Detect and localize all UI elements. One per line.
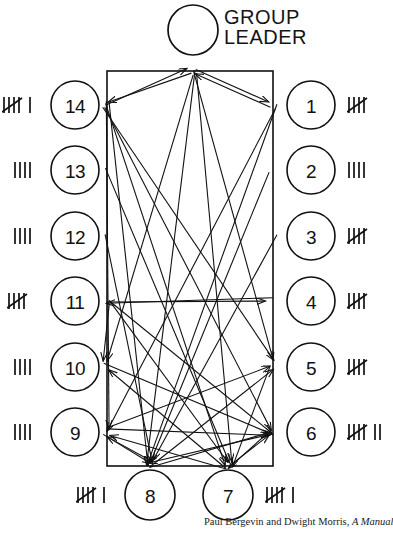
group-leader-node[interactable] xyxy=(168,5,218,55)
interaction-arrow xyxy=(107,75,193,361)
interaction-arrow xyxy=(110,435,227,468)
tally-marks-12 xyxy=(13,225,39,247)
tally-marks-9 xyxy=(13,421,39,443)
member-number: 5 xyxy=(306,358,316,379)
member-node-3[interactable]: 3 xyxy=(287,212,335,260)
member-number: 2 xyxy=(306,161,316,182)
member-number: 4 xyxy=(306,292,317,313)
member-node-2[interactable]: 2 xyxy=(287,146,335,194)
tally-marks-5 xyxy=(347,356,379,378)
interaction-arrow xyxy=(153,235,277,460)
member-node-6[interactable]: 6 xyxy=(287,408,335,456)
figure-caption: Paul Bergevin and Dwight Morris, A Manua… xyxy=(204,516,393,527)
tally-marks-10 xyxy=(13,356,39,378)
member-node-13[interactable]: 13 xyxy=(51,146,99,194)
interaction-arrow xyxy=(109,300,228,462)
member-node-8[interactable]: 8 xyxy=(125,470,175,520)
member-number: 12 xyxy=(65,227,85,248)
member-number: 14 xyxy=(65,96,86,117)
interaction-arrow xyxy=(106,68,187,105)
group-leader-label: GROUP LEADER xyxy=(224,7,307,47)
member-node-14[interactable]: 14 xyxy=(51,81,99,129)
group-leader-circle[interactable] xyxy=(168,5,218,55)
interaction-arrow xyxy=(105,107,272,430)
interaction-arrow xyxy=(103,107,274,360)
tally-marks-6 xyxy=(347,421,389,443)
member-node-11[interactable]: 11 xyxy=(51,277,99,325)
member-number: 1 xyxy=(306,96,316,117)
interaction-arrow xyxy=(195,74,270,107)
member-node-1[interactable]: 1 xyxy=(287,81,335,129)
member-number: 8 xyxy=(145,486,155,507)
member-number: 10 xyxy=(65,358,85,379)
interaction-arrow xyxy=(107,109,275,431)
tally-marks-13 xyxy=(13,159,39,181)
member-node-12[interactable]: 12 xyxy=(51,212,99,260)
interaction-arrow xyxy=(197,73,232,461)
interaction-arrow xyxy=(104,363,273,434)
tally-marks-1 xyxy=(347,94,379,116)
interaction-arrow xyxy=(106,298,273,304)
tally-marks-11 xyxy=(7,290,39,312)
member-node-4[interactable]: 4 xyxy=(287,277,335,325)
caption-italic-title: A Manual xyxy=(352,516,393,527)
member-number: 3 xyxy=(306,227,316,248)
interaction-arrow xyxy=(196,70,269,102)
tally-marks-8 xyxy=(76,484,113,506)
member-number: 6 xyxy=(306,423,316,444)
member-node-9[interactable]: 9 xyxy=(51,408,99,456)
interaction-arrow xyxy=(193,71,273,360)
member-node-10[interactable]: 10 xyxy=(51,343,99,391)
member-node-5[interactable]: 5 xyxy=(287,343,335,391)
tally-marks-2 xyxy=(347,159,373,181)
caption-prefix: Paul Bergevin and Dwight Morris, xyxy=(204,516,352,527)
member-number: 13 xyxy=(65,161,85,182)
member-number: 9 xyxy=(70,423,80,444)
member-number: 11 xyxy=(66,292,85,313)
member-node-7[interactable]: 7 xyxy=(203,470,253,520)
interaction-arrow xyxy=(228,432,268,468)
member-number: 7 xyxy=(223,486,233,507)
interaction-arrow-layer xyxy=(103,68,277,468)
tally-marks-14 xyxy=(2,94,39,116)
interaction-arrow xyxy=(149,433,268,468)
tally-marks-7 xyxy=(265,484,302,506)
tally-marks-4 xyxy=(347,290,379,312)
tally-marks-3 xyxy=(347,225,379,247)
interaction-arrow xyxy=(103,434,151,463)
